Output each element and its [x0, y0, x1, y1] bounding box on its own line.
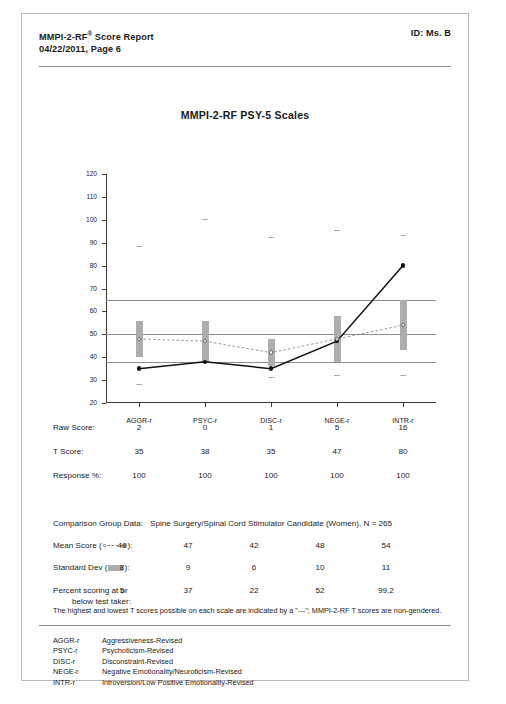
x-tick	[337, 403, 338, 407]
score-table: Raw Score:201516T Score:3538354780Respon…	[39, 423, 451, 495]
abbreviation-value: Aggressiveness-Revised	[102, 636, 182, 646]
data-point	[335, 339, 339, 343]
report-title: MMPI-2-RF® Score Report 04/22/2011, Page…	[39, 28, 154, 55]
series-lines	[106, 174, 436, 403]
standard-dev-value: 9	[156, 563, 220, 572]
reference-line-65	[106, 300, 436, 301]
y-tick-label: 100	[73, 216, 97, 223]
y-tick	[102, 403, 106, 404]
y-tick-label: 20	[73, 399, 97, 406]
x-tick	[205, 403, 206, 407]
limit-marker-high: ---	[190, 217, 220, 221]
y-tick	[102, 334, 106, 335]
data-point	[269, 366, 273, 370]
sd-bar	[136, 321, 143, 358]
mean-score-value: 48	[90, 541, 154, 550]
limit-marker-high: ---	[256, 235, 286, 239]
data-point	[269, 350, 273, 354]
y-tick-label: 110	[73, 193, 97, 200]
abbreviation-value: Introversion/Low Positive Emotionality-R…	[102, 678, 254, 688]
report-header: MMPI-2-RF® Score Report 04/22/2011, Page…	[39, 28, 451, 64]
abbreviation-key: INTR-r	[53, 678, 97, 688]
header-divider	[39, 66, 451, 67]
data-point	[137, 366, 141, 370]
table-cell: 100	[239, 471, 303, 480]
limit-marker-low: ---	[322, 373, 352, 377]
sd-bar	[334, 316, 341, 362]
y-tick	[102, 357, 106, 358]
y-tick	[102, 243, 106, 244]
report-title-main: MMPI-2-RF	[39, 32, 87, 42]
data-point	[203, 360, 207, 364]
standard-dev-value: 8	[90, 563, 154, 572]
y-tick-label: 30	[73, 376, 97, 383]
sd-bar	[268, 339, 275, 366]
data-point	[401, 263, 405, 267]
standard-dev-value: 10	[288, 563, 352, 572]
chart-note: The highest and lowest T scores possible…	[53, 606, 448, 616]
limit-marker-high: ---	[322, 228, 352, 232]
percent-below-row: Percent scoring at orbelow test taker:53…	[53, 585, 131, 607]
table-cell: 100	[305, 471, 369, 480]
table-cell: 2	[107, 423, 171, 432]
x-tick	[139, 403, 140, 407]
mean-score-row: Mean Score ():4847424854	[53, 541, 133, 550]
table-cell: 16	[371, 423, 435, 432]
comparison-group-label: Comparison Group Data:	[53, 519, 143, 528]
table-row: Response %:100100100100100	[39, 471, 451, 495]
abbreviation-key: PSYC-r	[53, 646, 97, 656]
table-cell: 38	[173, 447, 237, 456]
sd-bar	[202, 321, 209, 362]
page-root: MMPI-2-RF® Score Report 04/22/2011, Page…	[0, 0, 506, 704]
report-date-page: 04/22/2011, Page 6	[39, 44, 121, 54]
abbreviation-key: AGGR-r	[53, 636, 97, 646]
mean-score-value: 54	[354, 541, 418, 550]
percent-below-value: 22	[222, 585, 286, 596]
table-row-label: Raw Score:	[53, 423, 95, 432]
report-title-suffix: Score Report	[92, 32, 154, 42]
report-sheet: MMPI-2-RF® Score Report 04/22/2011, Page…	[21, 13, 469, 681]
standard-dev-value: 6	[222, 563, 286, 572]
data-point	[203, 339, 207, 343]
data-point	[401, 323, 405, 327]
table-cell: 100	[107, 471, 171, 480]
comparison-group-row: Comparison Group Data:Spine Surgery/Spin…	[53, 519, 392, 528]
y-tick	[102, 220, 106, 221]
table-cell: 35	[239, 447, 303, 456]
comparison-group-value: Spine Surgery/Spinal Cord Stimulator Can…	[150, 519, 392, 528]
table-row-label: T Score:	[53, 447, 83, 456]
x-tick	[403, 403, 404, 407]
plot-region: 1201101009080706050403020 --------------…	[106, 174, 436, 403]
table-row: Raw Score:201516	[39, 423, 451, 447]
table-cell: 100	[371, 471, 435, 480]
abbreviation-key: NEGE-r	[53, 667, 97, 677]
y-tick-label: 120	[73, 170, 97, 177]
y-axis	[106, 174, 107, 403]
abbreviation-value: Negative Emotionality/Neuroticism-Revise…	[102, 667, 242, 677]
y-tick-label: 60	[73, 307, 97, 314]
y-tick	[102, 289, 106, 290]
table-cell: 0	[173, 423, 237, 432]
abbreviation-key: DISC-r	[53, 657, 97, 667]
report-id: ID: Ms. B	[411, 28, 451, 38]
table-row: T Score:3538354780	[39, 447, 451, 471]
table-cell: 35	[107, 447, 171, 456]
limit-marker-low: ---	[388, 373, 418, 377]
limit-marker-high: ---	[124, 244, 154, 248]
y-tick-label: 40	[73, 353, 97, 360]
percent-below-value: 37	[156, 585, 220, 596]
reference-line-38	[106, 362, 436, 363]
limit-marker-low: ---	[124, 382, 154, 386]
sd-bar	[400, 300, 407, 350]
mean-score-value: 48	[288, 541, 352, 550]
y-tick	[102, 174, 106, 175]
percent-below-value: 99.2	[354, 585, 418, 596]
y-tick	[102, 266, 106, 267]
mean-score-value: 47	[156, 541, 220, 550]
standard-dev-value: 11	[354, 563, 418, 572]
data-point	[137, 337, 141, 341]
note-divider	[39, 625, 451, 626]
mean-score-value: 42	[222, 541, 286, 550]
standard-dev-row: Standard Dev ():8961011	[53, 563, 129, 572]
table-cell: 5	[305, 423, 369, 432]
